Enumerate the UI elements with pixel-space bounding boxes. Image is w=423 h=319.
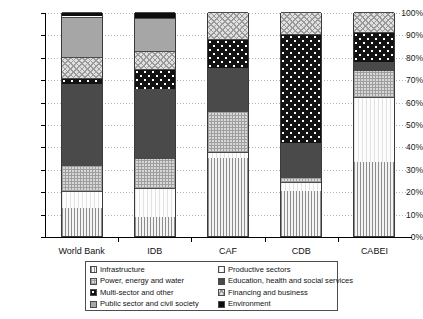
- legend-label: Environment: [228, 300, 271, 308]
- legend-swatch-icon: [218, 278, 225, 285]
- legend-swatch-icon: [218, 289, 225, 296]
- legend-swatch-icon: [90, 301, 97, 308]
- stacked-bar[interactable]: [207, 13, 249, 237]
- stacked-bar[interactable]: [280, 13, 322, 237]
- bar-segment[interactable]: [208, 111, 248, 152]
- legend-item[interactable]: Infrastructure: [90, 264, 218, 276]
- x-category-label: World Bank: [42, 246, 122, 256]
- x-category-label: CAF: [188, 246, 268, 256]
- legend-label: Infrastructure: [100, 266, 145, 274]
- legend-swatch-icon: [90, 266, 97, 273]
- bar-segment[interactable]: [62, 17, 102, 57]
- bar-segment[interactable]: [208, 12, 248, 39]
- legend-label: Productive sectors: [228, 266, 290, 274]
- legend-item[interactable]: Environment: [218, 299, 338, 311]
- bar-segment[interactable]: [62, 208, 102, 236]
- legend-swatch-icon: [218, 301, 225, 308]
- legend-swatch-icon: [218, 266, 225, 273]
- stacked-bar[interactable]: [61, 13, 103, 237]
- bar-segment[interactable]: [135, 188, 175, 217]
- legend-item[interactable]: Financing and business: [218, 287, 338, 299]
- bar-segment[interactable]: [135, 158, 175, 188]
- bar-segment[interactable]: [62, 84, 102, 166]
- legend-label: Multi-sector and other: [100, 289, 173, 297]
- legend-swatch-icon: [90, 278, 97, 285]
- bar-segment[interactable]: [281, 143, 321, 177]
- bar-segment[interactable]: [208, 158, 248, 236]
- bar-segment[interactable]: [354, 97, 394, 162]
- legend-item[interactable]: Public sector and civil society: [90, 299, 218, 311]
- stacked-bar[interactable]: [134, 13, 176, 237]
- legend-label: Financing and business: [228, 289, 308, 297]
- bar-segment[interactable]: [135, 12, 175, 18]
- bar-segment[interactable]: [208, 39, 248, 68]
- legend-label: Power, energy and water: [100, 277, 184, 285]
- legend-label: Public sector and civil society: [100, 300, 199, 308]
- stacked-bar[interactable]: [353, 13, 395, 237]
- x-tick-mark: [191, 238, 192, 242]
- bar-segment[interactable]: [354, 62, 394, 70]
- bar-segment[interactable]: [135, 89, 175, 157]
- bar-segment[interactable]: [62, 78, 102, 84]
- bar-segment[interactable]: [354, 12, 394, 32]
- bar-segment[interactable]: [208, 152, 248, 158]
- bar-segment[interactable]: [281, 191, 321, 236]
- bar-segment[interactable]: [354, 162, 394, 236]
- legend-item[interactable]: Multi-sector and other: [90, 287, 218, 299]
- chart-legend: InfrastructurePower, energy and waterMul…: [85, 261, 338, 311]
- bar-segment[interactable]: [135, 51, 175, 69]
- bar-segment[interactable]: [135, 18, 175, 52]
- x-category-label: CDB: [261, 246, 341, 256]
- x-tick-mark: [338, 238, 339, 242]
- x-category-label: IDB: [115, 246, 195, 256]
- bar-segment[interactable]: [281, 182, 321, 191]
- legend-swatch-icon: [90, 289, 97, 296]
- bar-segment[interactable]: [135, 217, 175, 236]
- bar-segment[interactable]: [281, 34, 321, 143]
- legend-column-1: InfrastructurePower, energy and waterMul…: [90, 264, 218, 310]
- legend-column-2: Productive sectorsEducation, health and …: [218, 264, 338, 310]
- bar-segment[interactable]: [281, 12, 321, 34]
- bar-segment[interactable]: [354, 32, 394, 62]
- bar-segment[interactable]: [62, 12, 102, 16]
- bar-segment[interactable]: [208, 68, 248, 111]
- chart-root: 0%10%20%30%40%50%60%70%80%90%100% World …: [0, 0, 423, 319]
- bar-segment[interactable]: [62, 191, 102, 208]
- y-axis-line: [45, 13, 46, 238]
- legend-item[interactable]: Productive sectors: [218, 264, 338, 276]
- bar-segment[interactable]: [62, 57, 102, 78]
- legend-label: Education, health and social services: [228, 277, 353, 285]
- x-axis-line: [45, 237, 412, 238]
- x-category-label: CABEI: [334, 246, 414, 256]
- bar-segment[interactable]: [281, 177, 321, 183]
- legend-item[interactable]: Education, health and social services: [218, 276, 338, 288]
- bar-segment[interactable]: [135, 69, 175, 89]
- bar-segment[interactable]: [62, 165, 102, 191]
- x-tick-mark: [118, 238, 119, 242]
- x-tick-mark: [265, 238, 266, 242]
- bar-segment[interactable]: [354, 70, 394, 97]
- legend-item[interactable]: Power, energy and water: [90, 276, 218, 288]
